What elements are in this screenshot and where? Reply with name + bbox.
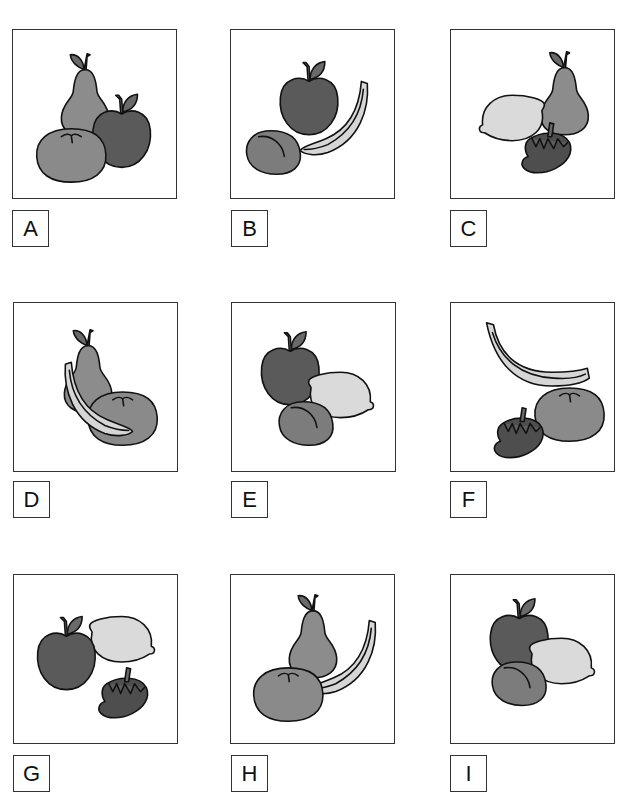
- label-f: F: [450, 481, 487, 518]
- fruit-illustration-d: [14, 303, 177, 471]
- lemon-icon: [90, 617, 155, 662]
- panel-f[interactable]: [450, 302, 615, 472]
- label-h-text: H: [242, 761, 258, 787]
- apple-icon: [37, 617, 95, 690]
- panel-h[interactable]: [230, 574, 395, 744]
- fruit-illustration-i: [451, 575, 614, 743]
- fruit-illustration-h: [231, 575, 394, 743]
- pear-icon: [541, 52, 589, 135]
- fruit-illustration-e: [232, 303, 395, 471]
- apple-icon: [280, 62, 338, 135]
- orange-icon: [37, 129, 106, 182]
- label-e: E: [231, 481, 268, 518]
- label-c: C: [450, 210, 487, 247]
- label-c-text: C: [461, 216, 477, 242]
- label-e-text: E: [242, 487, 257, 513]
- label-a-text: A: [23, 216, 38, 242]
- label-a: A: [12, 210, 49, 247]
- fruit-illustration-b: [231, 30, 394, 198]
- plum-icon: [279, 402, 333, 445]
- plum-icon: [247, 131, 301, 174]
- label-i: I: [450, 755, 487, 792]
- panel-c[interactable]: [450, 29, 615, 199]
- orange-icon: [254, 668, 323, 721]
- label-g: G: [13, 755, 50, 792]
- panel-b[interactable]: [230, 29, 395, 199]
- plum-icon: [492, 662, 546, 705]
- label-b-text: B: [242, 216, 257, 242]
- label-f-text: F: [462, 487, 475, 513]
- panel-d[interactable]: [13, 302, 178, 472]
- panel-a[interactable]: [12, 29, 177, 199]
- label-d: D: [13, 481, 50, 518]
- strawberry-icon: [99, 668, 148, 718]
- fruit-illustration-c: [451, 30, 614, 198]
- label-b: B: [231, 210, 268, 247]
- label-i-text: I: [465, 761, 471, 787]
- fruit-illustration-f: [451, 303, 614, 471]
- lemon-icon: [479, 95, 544, 140]
- panel-e[interactable]: [231, 302, 396, 472]
- pear-icon: [289, 595, 337, 678]
- fruit-illustration-a: [13, 30, 176, 198]
- panel-i[interactable]: [450, 574, 615, 744]
- label-h: H: [231, 755, 268, 792]
- label-d-text: D: [24, 487, 40, 513]
- label-g-text: G: [23, 761, 40, 787]
- panel-g[interactable]: [13, 574, 178, 744]
- fruit-illustration-g: [14, 575, 177, 743]
- orange-icon: [535, 388, 604, 441]
